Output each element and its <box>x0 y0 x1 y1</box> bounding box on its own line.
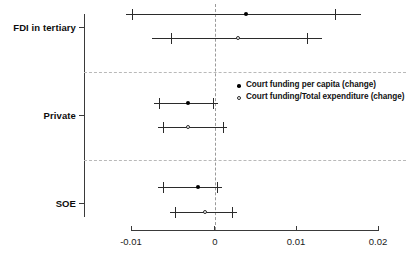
ci-cap <box>307 33 308 44</box>
ci-cap <box>232 207 233 218</box>
ci-cap <box>213 98 214 109</box>
estimate-point <box>203 210 207 214</box>
estimate-point <box>186 125 190 129</box>
ci-cap <box>217 182 218 193</box>
group-separator-bottom <box>84 160 406 161</box>
group-separator-top <box>84 72 406 73</box>
estimate-point <box>236 36 240 40</box>
ci-cap <box>335 9 336 20</box>
x-tick-label: 0.01 <box>272 236 320 247</box>
x-tick <box>131 226 132 230</box>
open-circle-icon <box>237 96 241 100</box>
ci-cap <box>163 182 164 193</box>
ci-cap <box>163 122 164 133</box>
ci-cap <box>132 9 133 20</box>
ci-cap <box>223 122 224 133</box>
y-axis-spine <box>84 14 85 217</box>
legend-label: Court funding/Total expenditure (change) <box>246 92 404 101</box>
x-tick-label: 0.02 <box>354 236 402 247</box>
forest-plot: FDI in tertiary Private SOE -0.01 0 0 <box>0 0 410 258</box>
y-axis-label-private: Private <box>4 110 76 121</box>
x-tick <box>296 226 297 230</box>
x-axis-spine <box>131 230 379 231</box>
legend-label: Court funding per capita (change) <box>246 80 376 89</box>
estimate-point <box>186 101 190 105</box>
ci-cap <box>175 207 176 218</box>
ci-line <box>158 127 227 128</box>
ci-cap <box>171 33 172 44</box>
y-axis-label-fdi: FDI in tertiary <box>4 22 76 33</box>
ci-cap <box>159 98 160 109</box>
x-tick <box>378 226 379 230</box>
x-tick <box>214 226 215 230</box>
estimate-point <box>244 12 248 16</box>
filled-circle-icon <box>237 84 241 88</box>
ci-line <box>158 187 222 188</box>
x-tick-label: -0.01 <box>107 236 155 247</box>
y-axis-label-soe: SOE <box>4 198 76 209</box>
estimate-point <box>196 185 200 189</box>
x-tick-label: 0 <box>191 236 239 247</box>
